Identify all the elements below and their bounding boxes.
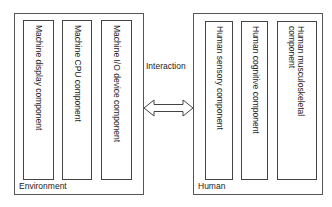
machine-io-device-component: Machine I/O device component — [101, 20, 132, 180]
component-label: Human musculoskeletal component — [286, 26, 305, 146]
human-box: Human sensory component Human cognitive … — [193, 13, 323, 195]
component-label: Machine I/O device component — [111, 25, 121, 142]
machine-cpu-component: Machine CPU component — [62, 20, 92, 180]
environment-box: Machine display component Machine CPU co… — [14, 13, 144, 195]
human-musculoskeletal-component: Human musculoskeletal component — [277, 21, 317, 180]
environment-label: Environment — [19, 181, 67, 191]
double-headed-arrow-icon — [143, 99, 194, 117]
machine-display-component: Machine display component — [23, 20, 54, 180]
human-sensory-component: Human sensory component — [205, 21, 233, 180]
human-label: Human — [198, 181, 225, 191]
component-label: Human cognitive component — [250, 26, 260, 134]
component-label: Human sensory component — [214, 26, 224, 130]
interaction-label: Interaction — [146, 61, 186, 71]
component-label: Machine CPU component — [72, 25, 82, 122]
human-cognitive-component: Human cognitive component — [241, 21, 268, 180]
component-label: Machine display component — [33, 25, 43, 130]
